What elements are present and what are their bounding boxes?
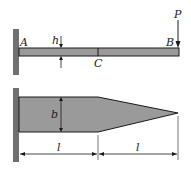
load-arrow-icon — [176, 41, 181, 48]
fixed-wall-bottom — [13, 88, 19, 162]
label-l-right: l — [136, 141, 140, 154]
beam-diagram: A h C B P b l l — [0, 0, 191, 171]
dim-left-arrow-start-icon — [20, 152, 25, 156]
side-view: A h C B P — [13, 8, 182, 75]
fixed-wall-top — [13, 29, 19, 75]
h-arrow-top-icon — [59, 44, 63, 48]
dim-right-arrow-end-icon — [172, 152, 177, 156]
beam-planform — [19, 97, 178, 132]
beam-side — [19, 48, 179, 56]
dim-right-arrow-start-icon — [99, 152, 104, 156]
label-b-point: B — [165, 36, 174, 49]
label-h: h — [52, 34, 59, 47]
label-a: A — [19, 36, 28, 49]
label-l-left: l — [57, 141, 61, 154]
label-c: C — [94, 57, 103, 70]
dim-left-arrow-end-icon — [92, 152, 97, 156]
h-arrow-bottom-icon — [59, 56, 63, 60]
top-view: b l l — [13, 88, 178, 162]
label-p: P — [173, 8, 182, 21]
label-b-width: b — [51, 108, 58, 121]
